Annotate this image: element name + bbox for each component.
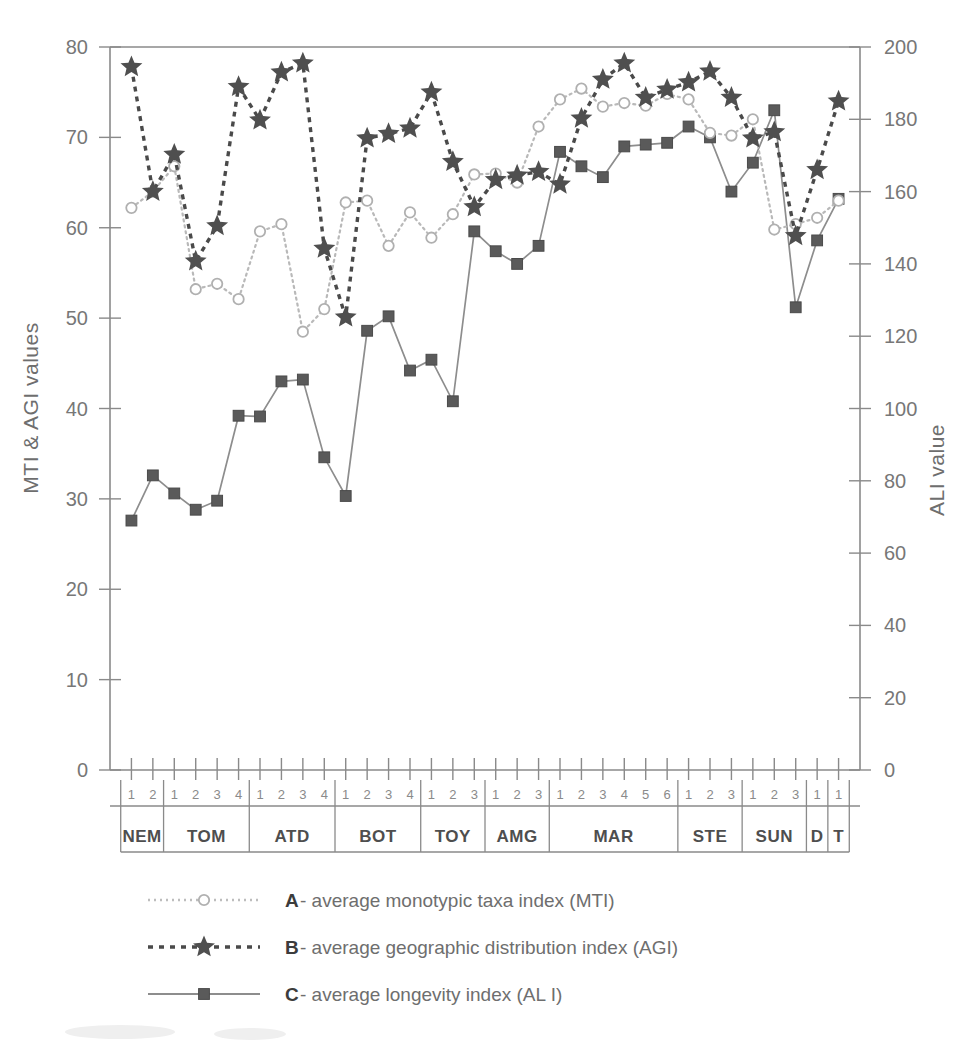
data-point-agi	[763, 120, 785, 141]
x-subtick-label: 3	[471, 787, 478, 802]
left-tick-label-30: 30	[66, 488, 88, 510]
x-group-label-amg: AMG	[497, 827, 538, 846]
right-tick-label-80: 80	[884, 470, 906, 492]
data-point-mti	[426, 232, 436, 242]
data-point-mti	[769, 224, 779, 234]
chart-figure: 01020304050607080 0204060801001201401601…	[0, 0, 964, 1044]
right-tick-label-0: 0	[884, 759, 895, 781]
legend-label-b: - average geographic distribution index …	[300, 937, 678, 958]
x-subtick-label: 6	[664, 787, 671, 802]
x-subtick-label: 3	[214, 787, 221, 802]
x-subtick-label: 2	[278, 787, 285, 802]
data-point-agi	[185, 250, 207, 271]
data-point-ali	[533, 240, 544, 251]
right-tick-label-200: 200	[884, 36, 917, 58]
x-group-label-atd: ATD	[275, 827, 310, 846]
data-point-agi	[485, 168, 507, 189]
data-point-mti	[812, 213, 822, 223]
data-point-ali	[190, 504, 201, 515]
data-point-agi	[249, 109, 271, 130]
data-point-ali	[555, 146, 566, 157]
data-point-ali	[683, 121, 694, 132]
x-subtick-label: 3	[385, 787, 392, 802]
data-point-mti	[833, 195, 843, 205]
x-subtick-label: 1	[428, 787, 435, 802]
right-axis-title: ALI value	[925, 424, 948, 516]
legend-marker-circle-icon	[199, 895, 209, 905]
left-tick-label-10: 10	[66, 669, 88, 691]
data-point-agi	[549, 173, 571, 194]
x-subtick-label: 4	[406, 787, 413, 802]
legend-marker-star-icon	[193, 936, 215, 957]
data-point-mti	[405, 207, 415, 217]
data-point-agi	[335, 306, 357, 327]
series-line-ali	[131, 110, 838, 520]
x-subtick-label: 1	[685, 787, 692, 802]
data-point-ali	[383, 311, 394, 322]
data-point-mti	[255, 226, 265, 236]
x-subtick-label: 1	[814, 787, 821, 802]
data-point-ali	[147, 470, 158, 481]
x-subtick-label: 1	[342, 787, 349, 802]
x-subtick-label: 2	[364, 787, 371, 802]
data-point-agi	[699, 60, 721, 81]
data-point-mti	[191, 284, 201, 294]
x-subtick-label: 1	[749, 787, 756, 802]
x-subtick-label: 2	[771, 787, 778, 802]
legend-item-a: A- average monotypic taxa index (MTI)	[148, 890, 615, 911]
x-subtick-label: 2	[449, 787, 456, 802]
x-group-label-nem: NEM	[123, 827, 162, 846]
x-subtick-label: 3	[299, 787, 306, 802]
chart-legend: A- average monotypic taxa index (MTI)B- …	[148, 890, 678, 1005]
data-point-ali	[576, 161, 587, 172]
data-point-mti	[469, 169, 479, 179]
right-tick-label-40: 40	[884, 614, 906, 636]
data-point-mti	[533, 121, 543, 131]
right-tick-label-140: 140	[884, 253, 917, 275]
data-point-ali	[490, 246, 501, 257]
plot-frame	[110, 47, 860, 770]
legend-label-a: - average monotypic taxa index (MTI)	[300, 890, 615, 911]
x-subtick-label: 3	[728, 787, 735, 802]
x-subtick-label: 1	[556, 787, 563, 802]
right-tick-label-120: 120	[884, 325, 917, 347]
data-point-ali	[747, 157, 758, 168]
data-point-ali	[212, 495, 223, 506]
right-tick-label-160: 160	[884, 181, 917, 203]
x-subtick-label: 4	[235, 787, 242, 802]
data-point-ali	[812, 235, 823, 246]
legend-key-a: A	[285, 890, 299, 911]
data-point-agi	[120, 55, 142, 76]
left-axis: 01020304050607080	[66, 36, 121, 781]
data-point-mti	[319, 304, 329, 314]
data-point-agi	[206, 214, 228, 235]
data-point-agi	[399, 117, 421, 138]
data-point-mti	[362, 195, 372, 205]
data-point-agi	[678, 71, 700, 92]
data-point-mti	[212, 279, 222, 289]
data-point-agi	[356, 127, 378, 148]
data-point-ali	[276, 376, 287, 387]
page-smudge-2	[214, 1028, 286, 1040]
left-tick-label-0: 0	[77, 759, 88, 781]
data-point-mti	[298, 326, 308, 336]
x-subtick-label: 1	[492, 787, 499, 802]
legend-key-b: B	[285, 937, 299, 958]
x-subtick-label: 1	[835, 787, 842, 802]
x-group-label-bot: BOT	[359, 827, 397, 846]
data-point-agi	[313, 237, 335, 258]
x-subtick-label: 2	[514, 787, 521, 802]
data-point-mti	[619, 98, 629, 108]
data-point-mti	[683, 94, 693, 104]
x-group-label-tom: TOM	[187, 827, 226, 846]
right-axis-title-text: ALI value	[925, 424, 948, 516]
data-point-agi	[570, 107, 592, 128]
data-point-agi	[613, 52, 635, 73]
legend-label-c: - average longevity index (AL I)	[300, 984, 562, 1005]
data-point-ali	[362, 325, 373, 336]
left-tick-label-20: 20	[66, 578, 88, 600]
x-subtick-label: 3	[535, 787, 542, 802]
data-point-ali	[426, 354, 437, 365]
right-tick-label-180: 180	[884, 108, 917, 130]
data-point-agi	[592, 68, 614, 89]
